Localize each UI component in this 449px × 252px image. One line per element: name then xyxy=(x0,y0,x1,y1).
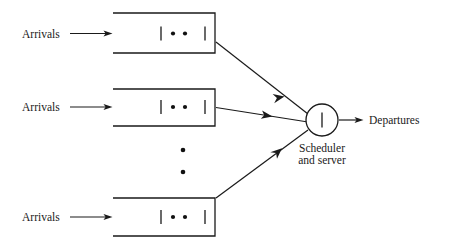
departure-arrow xyxy=(339,117,364,123)
vertical-ellipsis xyxy=(181,148,186,175)
connector-queue3-to-server xyxy=(216,130,308,198)
departures-label: Departures xyxy=(369,114,420,127)
queue-3-contents xyxy=(161,210,205,224)
arrivals-label-3: Arrivals xyxy=(22,211,60,223)
connector-queue2-to-server xyxy=(216,108,308,123)
scheduler-label-line1: Scheduler xyxy=(299,142,345,154)
server-node xyxy=(306,104,338,136)
queue-box-2 xyxy=(113,89,215,126)
queue-1-contents xyxy=(161,27,205,41)
arrivals-label-1: Arrivals xyxy=(22,28,60,40)
scheduler-label-line2: and server xyxy=(298,154,346,166)
queue-box-3 xyxy=(113,198,215,236)
arrival-arrow-3 xyxy=(70,214,113,220)
diagram-canvas: Arrivals Arrivals Arrivals Scheduler and… xyxy=(0,0,449,252)
queueing-diagram: Arrivals Arrivals Arrivals Scheduler and… xyxy=(0,0,449,252)
connector-queue1-to-server xyxy=(216,42,308,114)
arrival-arrow-1 xyxy=(70,30,113,36)
arrival-arrow-2 xyxy=(70,104,113,110)
queue-box-1 xyxy=(113,13,215,53)
arrivals-label-2: Arrivals xyxy=(22,101,60,113)
queue-2-contents xyxy=(161,100,205,114)
